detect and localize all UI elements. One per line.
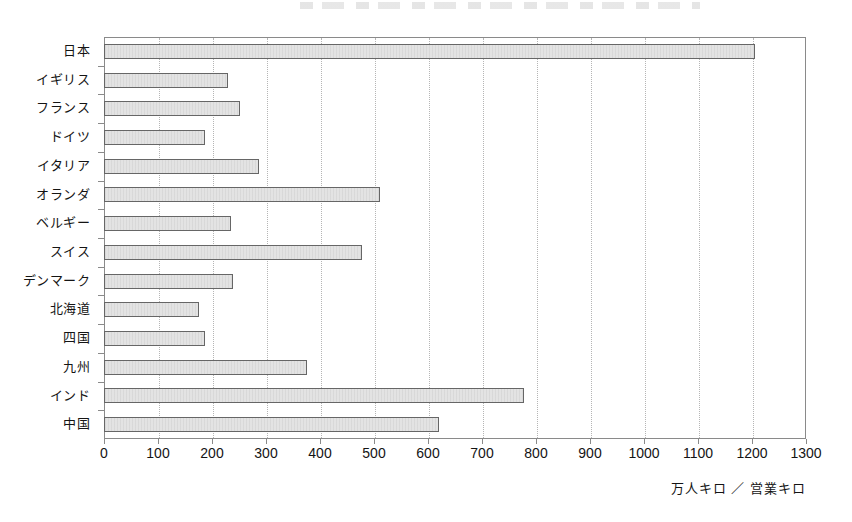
x-axis-label-600: 600: [416, 445, 439, 461]
y-tick: [98, 382, 104, 383]
y-axis-category-labels: 日本イギリスフランスドイツイタリアオランダベルギースイスデンマーク北海道四国九州…: [0, 37, 98, 439]
bar-row: [104, 181, 806, 210]
y-axis-label-四国: 四国: [63, 324, 90, 353]
y-axis-label-ベルギー: ベルギー: [36, 209, 90, 238]
y-axis-label-イタリア: イタリア: [37, 152, 90, 181]
y-axis-label-イギリス: イギリス: [36, 66, 90, 95]
x-tick-900: [590, 439, 591, 444]
x-tick-800: [536, 439, 537, 444]
y-axis-label-フランス: フランス: [36, 94, 90, 123]
x-axis-label-1200: 1200: [736, 445, 767, 461]
x-tick-300: [266, 439, 267, 444]
bar-row: [104, 353, 806, 382]
bar-中国: [104, 417, 439, 432]
x-tick-100: [158, 439, 159, 444]
x-axis-label-300: 300: [254, 445, 277, 461]
bar-日本: [104, 44, 755, 59]
y-tick: [98, 410, 104, 411]
y-axis-label-中国: 中国: [63, 410, 90, 439]
x-axis-label-1100: 1100: [683, 445, 713, 461]
bar-フランス: [104, 101, 240, 116]
y-axis-label-ドイツ: ドイツ: [50, 123, 91, 152]
x-tick-0: [104, 439, 105, 444]
bar-row: [104, 382, 806, 411]
x-tick-1000: [644, 439, 645, 444]
y-axis-label-インド: インド: [50, 382, 91, 411]
x-tick-1100: [698, 439, 699, 444]
horizontal-bar-chart: 日本イギリスフランスドイツイタリアオランダベルギースイスデンマーク北海道四国九州…: [0, 0, 852, 522]
y-tick: [98, 295, 104, 296]
y-tick: [98, 324, 104, 325]
bar-row: [104, 152, 806, 181]
bar-series: [104, 37, 806, 439]
y-axis-label-オランダ: オランダ: [36, 181, 90, 210]
bar-row: [104, 324, 806, 353]
bar-ベルギー: [104, 216, 231, 231]
bar-四国: [104, 331, 205, 346]
x-tick-1200: [752, 439, 753, 444]
x-tick-400: [320, 439, 321, 444]
x-axis-label-0: 0: [100, 445, 108, 461]
bar-デンマーク: [104, 274, 233, 289]
bar-九州: [104, 360, 307, 375]
y-tick: [98, 267, 104, 268]
bar-row: [104, 123, 806, 152]
y-axis-label-九州: 九州: [63, 353, 90, 382]
bar-row: [104, 295, 806, 324]
bar-row: [104, 66, 806, 95]
y-tick: [98, 209, 104, 210]
x-tick-200: [212, 439, 213, 444]
x-axis-label-100: 100: [146, 445, 169, 461]
bar-row: [104, 267, 806, 296]
x-axis-label-900: 900: [578, 445, 601, 461]
x-axis-label-1000: 1000: [628, 445, 659, 461]
x-tick-1300: [806, 439, 807, 444]
y-tick: [98, 94, 104, 95]
bar-ドイツ: [104, 130, 205, 145]
x-axis-label-700: 700: [470, 445, 493, 461]
x-tick-700: [482, 439, 483, 444]
y-tick: [98, 353, 104, 354]
y-axis-label-デンマーク: デンマーク: [23, 267, 91, 296]
unit-label: 万人キロ ／ 営業キロ: [671, 478, 806, 497]
bar-row: [104, 238, 806, 267]
y-tick: [98, 123, 104, 124]
bar-row: [104, 37, 806, 66]
bar-イタリア: [104, 159, 259, 174]
bar-スイス: [104, 245, 362, 260]
x-axis-label-800: 800: [524, 445, 547, 461]
x-axis-label-500: 500: [362, 445, 385, 461]
y-axis-label-北海道: 北海道: [50, 295, 91, 324]
y-tick: [98, 152, 104, 153]
x-tick-600: [428, 439, 429, 444]
bar-インド: [104, 388, 524, 403]
bar-イギリス: [104, 73, 228, 88]
y-tick: [98, 66, 104, 67]
y-tick: [98, 238, 104, 239]
x-axis-label-200: 200: [200, 445, 223, 461]
bar-row: [104, 410, 806, 439]
x-axis-label-1300: 1300: [790, 445, 821, 461]
x-axis: 0100200300400500600700800900100011001200…: [104, 439, 806, 469]
y-tick: [98, 181, 104, 182]
x-tick-500: [374, 439, 375, 444]
y-axis-label-スイス: スイス: [50, 238, 91, 267]
bar-row: [104, 209, 806, 238]
bar-row: [104, 94, 806, 123]
bar-オランダ: [104, 187, 380, 202]
bar-北海道: [104, 302, 199, 317]
y-axis-label-日本: 日本: [63, 37, 90, 66]
x-axis-label-400: 400: [308, 445, 331, 461]
